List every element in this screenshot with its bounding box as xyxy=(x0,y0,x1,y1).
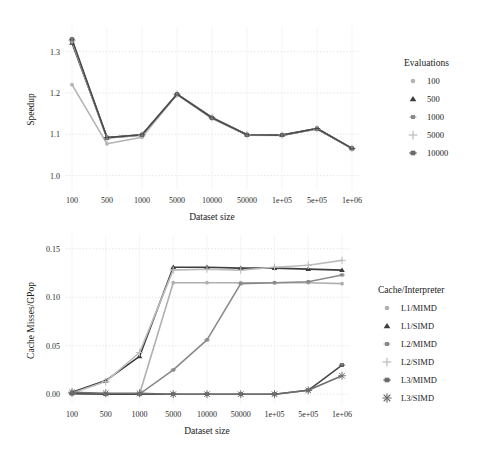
y-tick-label: 1.3 xyxy=(50,48,60,57)
legend-marker-circle-icon xyxy=(404,74,422,88)
data-point-l2-mimd xyxy=(272,281,278,284)
cache-interpreter-legend: Cache/Interpreter L1/MIMDL1/SIMDL2/MIMDL… xyxy=(378,285,444,408)
legend-label: L1/SIMD xyxy=(401,321,434,331)
figure-page: 1.01.11.21.31005001000500010000500001e+0… xyxy=(0,0,480,458)
y-tick-label: 0.10 xyxy=(46,293,60,302)
x-axis-title: Dataset size xyxy=(184,426,230,436)
legend-item-1000[interactable]: 1000 xyxy=(404,109,449,124)
x-tick-label: 50000 xyxy=(231,410,251,419)
legend-label: 10000 xyxy=(427,148,448,158)
data-point-l3-simd xyxy=(338,372,345,379)
x-tick-label: 1000 xyxy=(132,410,148,419)
data-point-l3-simd xyxy=(170,391,177,398)
legend-item-5000[interactable]: 5000 xyxy=(404,127,449,142)
legend-square-icon xyxy=(384,342,391,346)
legend-plus-icon xyxy=(383,357,392,366)
speedup-panel: 1.01.11.21.31005001000500010000500001e+0… xyxy=(0,0,480,229)
data-point-l3-simd xyxy=(237,391,244,398)
y-axis-title: Speedup xyxy=(26,93,36,126)
x-tick-label: 50000 xyxy=(237,196,257,205)
x-tick-label: 100 xyxy=(66,410,78,419)
x-tick-label: 1e+06 xyxy=(342,196,362,205)
legend-triangle-icon xyxy=(384,322,391,327)
legend-marker-triangle-icon xyxy=(404,92,422,106)
cache-misses-plot-svg: 0.000.050.100.15100500100050001000050000… xyxy=(0,229,390,458)
legend-item-l1-simd[interactable]: L1/SIMD xyxy=(378,318,444,333)
legend-item-l3-simd[interactable]: L3/SIMD xyxy=(378,390,444,405)
legend-label: L1/MIMD xyxy=(401,303,437,313)
cache-misses-panel: 0.000.050.100.15100500100050001000050000… xyxy=(0,229,480,458)
y-tick-label: 1.1 xyxy=(50,130,60,139)
y-tick-label: 1.0 xyxy=(50,172,60,181)
data-point-l1-mimd xyxy=(171,281,175,285)
x-tick-label: 1e+06 xyxy=(332,410,352,419)
legend-marker-square-dot-icon xyxy=(404,146,422,160)
legend-label: 5000 xyxy=(427,130,444,140)
data-point-l3-simd xyxy=(136,390,143,397)
speedup-plot-svg: 1.01.11.21.31005001000500010000500001e+0… xyxy=(0,0,400,229)
x-tick-label: 5e+05 xyxy=(298,410,318,419)
cache-misses-plot: 0.000.050.100.15100500100050001000050000… xyxy=(0,229,390,458)
x-tick-label: 100 xyxy=(66,196,78,205)
data-point-l3-simd xyxy=(102,390,109,397)
legend-label: L2/MIMD xyxy=(401,339,437,349)
x-tick-label: 5000 xyxy=(165,410,181,419)
legend-marker-square-dot-icon xyxy=(378,373,396,387)
legend-square-dot-icon xyxy=(409,150,416,155)
legend-marker-plus-icon xyxy=(404,128,422,142)
data-point-100 xyxy=(70,83,74,87)
legend-marker-square-icon xyxy=(404,110,422,124)
y-tick-label: 0.15 xyxy=(46,245,60,254)
legend-label: 500 xyxy=(427,94,440,104)
data-point-l2-simd xyxy=(338,257,345,264)
x-tick-label: 500 xyxy=(100,410,112,419)
data-point-l3-simd xyxy=(68,389,75,396)
y-tick-label: 1.2 xyxy=(50,89,60,98)
legend-square-icon xyxy=(410,115,417,119)
legend-plus-icon xyxy=(409,130,418,139)
data-point-l2-simd xyxy=(305,262,312,269)
x-tick-label: 5e+05 xyxy=(307,196,327,205)
legend-circle-icon xyxy=(385,305,390,310)
legend-circle-icon xyxy=(411,78,416,83)
x-tick-label: 1e+05 xyxy=(272,196,292,205)
data-point-l3-simd xyxy=(305,387,312,394)
legend-label: 1000 xyxy=(427,112,444,122)
legend-marker-square-icon xyxy=(378,337,396,351)
y-tick-label: 0.00 xyxy=(46,390,60,399)
y-tick-label: 0.05 xyxy=(46,342,60,351)
legend-item-l2-simd[interactable]: L2/SIMD xyxy=(378,354,444,369)
legend-marker-plus-icon xyxy=(378,355,396,369)
legend-item-l1-mimd[interactable]: L1/MIMD xyxy=(378,300,444,315)
legend-item-500[interactable]: 500 xyxy=(404,91,449,106)
x-tick-label: 1e+05 xyxy=(264,410,284,419)
legend-label: 100 xyxy=(427,76,440,86)
legend-item-l2-mimd[interactable]: L2/MIMD xyxy=(378,336,444,351)
legend-marker-circle-icon xyxy=(378,301,396,315)
legend-triangle-icon xyxy=(410,95,417,100)
legend-item-10000[interactable]: 10000 xyxy=(404,145,449,160)
legend-items-evaluations: 1005001000500010000 xyxy=(404,73,449,160)
legend-title-evaluations: Evaluations xyxy=(404,58,449,68)
x-tick-label: 500 xyxy=(101,196,113,205)
legend-marker-triangle-icon xyxy=(378,319,396,333)
x-tick-label: 10000 xyxy=(202,196,222,205)
y-axis-title: Cache Misses/GPop xyxy=(26,282,36,359)
speedup-plot: 1.01.11.21.31005001000500010000500001e+0… xyxy=(0,0,400,229)
legend-label: L3/MIMD xyxy=(401,375,437,385)
x-tick-label: 5000 xyxy=(169,196,185,205)
legend-item-l3-mimd[interactable]: L3/MIMD xyxy=(378,372,444,387)
legend-items-cache-interpreter: L1/MIMDL1/SIMDL2/MIMDL2/SIMDL3/MIMDL3/SI… xyxy=(378,300,444,405)
data-point-l1-mimd xyxy=(340,282,344,286)
data-point-l3-simd xyxy=(271,391,278,398)
legend-label: L3/SIMD xyxy=(401,393,434,403)
data-point-l3-simd xyxy=(203,391,210,398)
legend-marker-asterisk-icon xyxy=(378,391,396,405)
legend-item-100[interactable]: 100 xyxy=(404,73,449,88)
evaluations-legend: Evaluations 1005001000500010000 xyxy=(404,58,449,163)
x-tick-label: 10000 xyxy=(197,410,217,419)
data-point-l1-mimd xyxy=(205,281,209,285)
legend-title-cache-interpreter: Cache/Interpreter xyxy=(378,285,444,295)
legend-asterisk-icon xyxy=(383,393,392,402)
x-axis-title: Dataset size xyxy=(189,212,235,222)
